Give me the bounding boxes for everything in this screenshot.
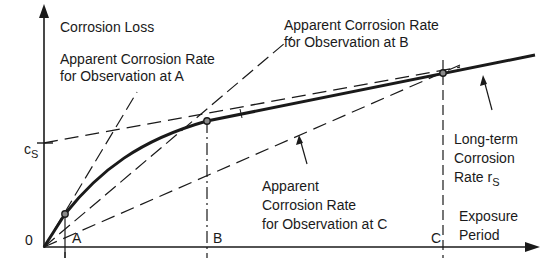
arrow-longterm-icon xyxy=(480,75,487,86)
annotation-longterm: Long-term Corrosion Rate rS xyxy=(454,130,518,188)
annotation-rate-a-line2: for Observation at A xyxy=(60,68,215,85)
origin-label: 0 xyxy=(25,232,33,249)
point-b-label: B xyxy=(213,230,222,247)
longterm-rate-main: Rate r xyxy=(454,169,492,185)
point-a-marker xyxy=(62,211,68,217)
annotation-longterm-line1: Long-term xyxy=(454,130,518,149)
x-axis-label-line2: Period xyxy=(459,226,518,245)
y-axis-label: Corrosion Loss xyxy=(60,19,154,36)
point-c-label: C xyxy=(431,230,441,247)
x-axis-label-line1: Exposure xyxy=(459,207,518,226)
cs-label-sub: S xyxy=(31,148,38,160)
annotation-rate-c-line2: Corrosion Rate xyxy=(262,196,387,215)
cs-label: cS xyxy=(24,141,38,159)
longterm-rate-sub: S xyxy=(492,176,499,188)
apparent-rate-c-line xyxy=(44,65,460,247)
annotation-longterm-line2: Corrosion xyxy=(454,149,518,168)
point-a-label: A xyxy=(72,230,81,247)
annotation-rate-b-line1: Apparent Corrosion Rate xyxy=(284,17,439,34)
point-c-marker xyxy=(440,70,446,76)
annotation-rate-c: Apparent Corrosion Rate for Observation … xyxy=(262,177,387,234)
annotation-rate-b-line2: for Observation at B xyxy=(284,34,439,51)
annotation-rate-c-line1: Apparent xyxy=(262,177,387,196)
x-axis-label: Exposure Period xyxy=(459,207,518,245)
annotation-rate-b: Apparent Corrosion Rate for Observation … xyxy=(284,17,439,51)
x-axis-arrow-icon xyxy=(525,242,540,252)
annotation-rate-c-line3: for Observation at C xyxy=(262,215,387,234)
y-axis-arrow-icon xyxy=(39,4,49,18)
annotation-rate-a: Apparent Corrosion Rate for Observation … xyxy=(60,51,215,85)
point-b-marker xyxy=(204,118,210,124)
annotation-longterm-line3: Rate rS xyxy=(454,168,518,188)
annotation-rate-a-line1: Apparent Corrosion Rate xyxy=(60,51,215,68)
cs-label-main: c xyxy=(24,141,31,157)
